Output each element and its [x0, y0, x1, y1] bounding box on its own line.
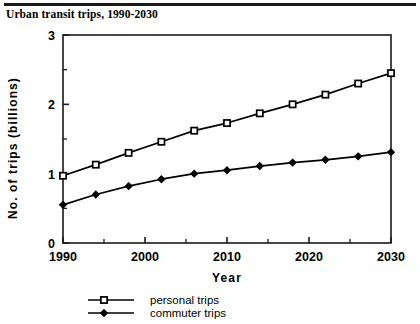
data-point-marker: [92, 191, 99, 198]
data-point-marker: [126, 150, 132, 156]
legend-label: commuter trips: [150, 307, 226, 319]
data-point-marker: [191, 170, 198, 177]
x-axis-tick-labels: 19902000201020202030: [49, 250, 405, 264]
data-series-group: [60, 70, 395, 208]
data-point-marker: [322, 92, 328, 98]
legend-label: personal trips: [150, 294, 219, 306]
x-tick-label: 2000: [131, 250, 159, 264]
y-tick-label: 1: [48, 168, 55, 182]
legend-entry: personal trips: [88, 294, 219, 306]
data-series: [60, 70, 394, 179]
x-axis-title: Year: [212, 271, 242, 285]
data-point-marker: [158, 139, 164, 145]
data-point-marker: [257, 110, 263, 116]
data-point-marker: [191, 128, 197, 134]
y-tick-label: 3: [48, 29, 55, 43]
data-point-marker: [224, 167, 231, 174]
x-tick-label: 2030: [377, 250, 405, 264]
chart-plot: 0123 19902000201020202030 Year personal …: [0, 0, 420, 324]
series-line: [63, 152, 391, 205]
y-axis-tick-labels: 0123: [48, 29, 55, 251]
data-point-marker: [322, 156, 329, 163]
data-point-marker: [60, 173, 66, 179]
data-point-marker: [388, 70, 394, 76]
data-point-marker: [290, 101, 296, 107]
data-point-marker: [101, 310, 108, 317]
x-tick-label: 2010: [213, 250, 241, 264]
data-point-marker: [101, 297, 107, 303]
data-point-marker: [388, 149, 395, 156]
figure-container: Urban transit trips, 1990-2030 No. of tr…: [0, 0, 420, 324]
data-point-marker: [224, 120, 230, 126]
chart-legend: personal tripscommuter trips: [88, 294, 226, 319]
legend-entry: commuter trips: [88, 307, 226, 319]
data-point-marker: [93, 162, 99, 168]
x-axis-ticks: [63, 237, 391, 243]
data-series: [60, 149, 395, 208]
data-point-marker: [158, 176, 165, 183]
y-tick-label: 0: [48, 237, 55, 251]
data-point-marker: [60, 201, 67, 208]
data-point-marker: [289, 159, 296, 166]
x-tick-label: 1990: [49, 250, 77, 264]
data-point-marker: [125, 183, 132, 190]
data-point-marker: [355, 153, 362, 160]
x-tick-label: 2020: [295, 250, 323, 264]
plot-frame: [63, 35, 391, 243]
data-point-marker: [256, 163, 263, 170]
y-axis-ticks: [63, 35, 69, 243]
y-tick-label: 2: [48, 98, 55, 112]
data-point-marker: [355, 80, 361, 86]
